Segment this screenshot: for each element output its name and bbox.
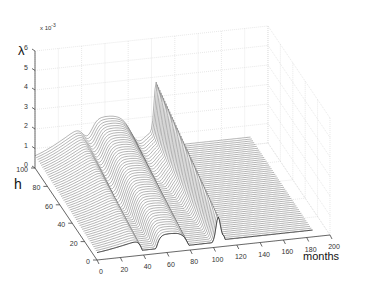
y-tick-label: 0: [86, 258, 90, 265]
y-tick-label: 100: [16, 166, 28, 173]
x-tick-label: 160: [282, 248, 294, 255]
y-tick-label: 20: [70, 240, 78, 247]
z-tick-label: 2: [24, 122, 28, 129]
z-tick-label: 1: [24, 142, 28, 149]
z-axis-label: λ: [18, 43, 25, 58]
z-scale-label: x 10-3: [40, 22, 56, 31]
z-tick-label: 6: [24, 44, 28, 51]
y-tick-label: 60: [45, 203, 53, 210]
y-tick-label: 80: [33, 184, 41, 191]
x-tick-label: 40: [144, 263, 152, 270]
x-tick-label: 200: [328, 243, 340, 250]
x-tick-label: 140: [258, 251, 270, 258]
y-axis-label: h: [14, 176, 22, 192]
z-tick-label: 3: [24, 103, 28, 110]
x-tick-label: 20: [120, 266, 128, 273]
surface-mesh: [35, 82, 313, 260]
x-tick-label: 100: [212, 256, 224, 263]
x-tick-label: 0: [99, 268, 103, 275]
x-tick-label: 60: [167, 261, 175, 268]
y-tick-label: 40: [57, 221, 65, 228]
x-tick-label: 120: [235, 253, 247, 260]
x-tick-label: 80: [190, 258, 198, 265]
x-axis-label: months: [303, 250, 340, 262]
surface-plot: 0123456020406080100020406080100120140160…: [0, 0, 367, 284]
z-tick-label: 5: [24, 64, 28, 71]
z-tick-label: 4: [24, 83, 28, 90]
